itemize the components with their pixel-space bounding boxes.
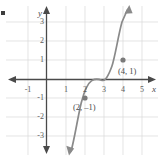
x-tick-label-1: 1	[63, 86, 69, 94]
x-tick-label-2: 2	[82, 86, 88, 94]
y-tick-label-neg2: -2	[34, 113, 44, 121]
data-point-2-neg1	[82, 95, 87, 100]
data-point-4-1	[120, 57, 125, 62]
y-tick-label-neg3: -3	[34, 132, 44, 140]
x-tick-label-5: 5	[139, 86, 145, 94]
y-tick-label-neg1: -1	[34, 94, 44, 102]
x-tick-label-4: 4	[120, 86, 126, 94]
point-label-2-neg1: (2, –1)	[73, 103, 96, 112]
y-axis-label: y	[38, 9, 42, 18]
graph-figure: 3 2 1 -1 -2 -3 -1 1 2 3 4 5 y x (4, 1) (…	[0, 0, 163, 160]
coordinate-plane	[0, 0, 163, 160]
y-tick-label-3: 3	[38, 18, 44, 26]
x-tick-label-3: 3	[101, 86, 107, 94]
x-tick-label-neg1: -1	[23, 86, 33, 94]
x-axis	[8, 76, 156, 83]
y-tick-label-2: 2	[38, 37, 44, 45]
y-tick-label-1: 1	[38, 56, 44, 64]
grid-lines-vertical	[28, 6, 142, 155]
point-label-4-1: (4, 1)	[118, 67, 136, 76]
x-axis-label: x	[152, 85, 156, 94]
